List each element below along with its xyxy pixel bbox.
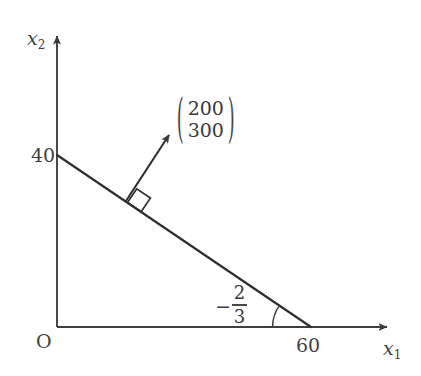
vector-component-bottom: 300 xyxy=(188,119,224,141)
y-axis-label: x2 xyxy=(27,29,45,48)
diagram-canvas xyxy=(0,0,421,376)
constraint-line xyxy=(57,155,311,327)
x-intercept-label: 60 xyxy=(296,336,320,355)
vector-component-top: 200 xyxy=(188,97,224,119)
slope-fraction: 2 3 xyxy=(232,284,247,326)
y-intercept-label: 40 xyxy=(31,146,55,165)
x-axis-label-sub: 1 xyxy=(394,348,402,362)
y-axis-label-sub: 2 xyxy=(38,38,46,52)
vector-paren-right: ) xyxy=(228,93,235,145)
slope-numerator: 2 xyxy=(233,284,246,302)
geometry-figure: x2 x1 O 40 60 ( 200 300 ) − 2 3 xyxy=(0,0,421,376)
normal-vector-label: ( 200 300 ) xyxy=(176,97,236,142)
slope-label: − 2 3 xyxy=(215,284,247,326)
origin-label: O xyxy=(36,332,52,351)
normal-vector-arrow xyxy=(126,135,169,201)
angle-arc xyxy=(273,305,280,327)
vector-paren-left: ( xyxy=(177,93,184,145)
x-axis-label: x1 xyxy=(383,339,401,358)
vector-components: 200 300 xyxy=(185,97,227,142)
slope-denominator: 3 xyxy=(233,308,246,326)
slope-minus-sign: − xyxy=(215,295,231,317)
y-axis-label-var: x xyxy=(27,27,38,49)
x-axis-label-var: x xyxy=(383,337,394,359)
